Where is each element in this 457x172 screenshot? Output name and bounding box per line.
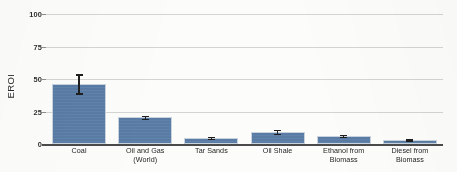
y-tick-label: 25 (16, 107, 42, 116)
y-axis-tick-labels: 0255075100 (14, 0, 42, 172)
y-tick-label: 0 (16, 140, 42, 149)
x-tick-label-line: Oil Shale (245, 147, 311, 156)
x-tick-label: Oil Shale (245, 147, 311, 156)
x-axis-tick-labels: CoalOil and Gas(World)Tar SandsOil Shale… (46, 147, 443, 172)
y-tick-label: 75 (16, 42, 42, 51)
x-tick-label-line: Biomass (377, 156, 443, 165)
x-tick-label-line: Coal (46, 147, 112, 156)
bar-group (118, 14, 172, 144)
chart-figure: EROI 0255075100 CoalOil and Gas(World)Ta… (0, 0, 457, 172)
plot-area (46, 14, 443, 144)
x-tick-label-line: Tar Sands (178, 147, 244, 156)
x-tick-label-line: (World) (112, 156, 178, 165)
error-cap-lower (208, 139, 215, 140)
bar-group (317, 14, 371, 144)
bar-group (383, 14, 437, 144)
error-cap-upper (76, 74, 83, 75)
error-cap-lower (406, 141, 413, 142)
bars-layer (46, 14, 443, 144)
error-bar (78, 74, 79, 93)
bar (118, 117, 172, 144)
y-tick-label: 100 (16, 10, 42, 19)
error-cap-upper (340, 135, 347, 136)
error-cap-lower (142, 119, 149, 120)
bar-group (184, 14, 238, 144)
x-tick-label: Diesel fromBiomass (377, 147, 443, 164)
error-cap-upper (142, 116, 149, 117)
y-tick-label: 50 (16, 75, 42, 84)
x-tick-label: Oil and Gas(World) (112, 147, 178, 164)
bar-group (251, 14, 305, 144)
x-tick-label-line: Biomass (311, 156, 377, 165)
bar-group (52, 14, 106, 144)
x-tick-label: Tar Sands (178, 147, 244, 156)
error-cap-lower (76, 93, 83, 94)
error-cap-lower (340, 137, 347, 138)
error-cap-lower (274, 134, 281, 135)
error-cap-upper (274, 130, 281, 131)
axis-baseline (42, 144, 443, 146)
x-tick-label: Ethanol fromBiomass (311, 147, 377, 164)
x-tick-label: Coal (46, 147, 112, 156)
